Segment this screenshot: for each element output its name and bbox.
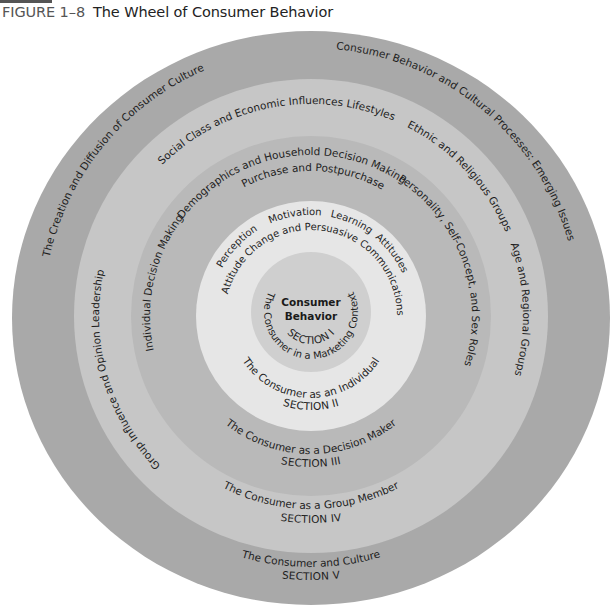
consumer-behavior-wheel: The Creation and Diffusion of Consumer C… <box>0 0 612 610</box>
core-title-line2: Behavior <box>285 310 338 322</box>
core-title-line1: Consumer <box>281 296 341 308</box>
section-v-label: SECTION V <box>282 568 341 582</box>
